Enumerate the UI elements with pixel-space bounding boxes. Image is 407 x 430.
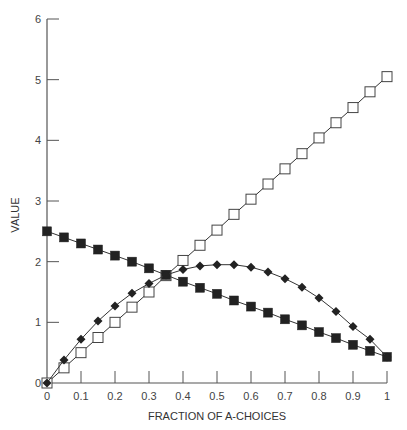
filled-square-marker	[298, 321, 307, 330]
x-tick-label: 0	[44, 390, 50, 402]
filled-square-marker	[315, 328, 324, 337]
open-square-marker	[314, 133, 324, 143]
x-tick-label: 0.2	[107, 390, 122, 402]
filled-diamond-marker	[281, 274, 290, 283]
series-filled-diamonds	[43, 260, 392, 387]
filled-square-marker	[213, 289, 222, 298]
filled-square-marker	[94, 245, 103, 254]
filled-diamond-marker	[315, 294, 324, 303]
filled-square-marker	[145, 264, 154, 273]
x-tick-label: 1	[384, 390, 390, 402]
filled-square-marker	[128, 257, 137, 266]
open-square-marker	[229, 209, 239, 219]
y-tick-label: 4	[35, 134, 41, 146]
open-square-marker	[365, 87, 375, 97]
filled-diamond-marker	[196, 261, 205, 270]
open-square-marker	[178, 255, 188, 265]
axes: 00.10.20.30.40.50.60.70.80.910123456	[35, 13, 390, 402]
y-axis-title: VALUE	[9, 197, 21, 232]
y-tick-label: 3	[35, 195, 41, 207]
filled-diamond-marker	[247, 263, 256, 272]
open-square-marker	[297, 149, 307, 159]
filled-square-marker	[366, 346, 375, 355]
x-tick-label: 0.6	[243, 390, 258, 402]
open-square-marker	[110, 317, 120, 327]
filled-diamond-marker	[230, 260, 239, 269]
filled-diamond-marker	[179, 265, 188, 274]
y-tick-label: 6	[35, 13, 41, 25]
open-square-marker	[212, 225, 222, 235]
x-tick-label: 0.8	[311, 390, 326, 402]
y-tick-label: 0	[35, 377, 41, 389]
open-square-marker	[246, 194, 256, 204]
open-square-marker	[348, 103, 358, 113]
filled-square-marker	[264, 308, 273, 317]
filled-square-marker	[60, 233, 69, 242]
open-square-marker	[382, 72, 392, 82]
line-chart: 00.10.20.30.40.50.60.70.80.910123456 FRA…	[0, 0, 407, 430]
filled-square-marker	[111, 251, 120, 260]
open-square-marker	[93, 333, 103, 343]
open-square-marker	[127, 302, 137, 312]
filled-square-marker	[281, 315, 290, 324]
y-tick-label: 2	[35, 256, 41, 268]
filled-square-marker	[247, 302, 256, 311]
filled-diamond-marker	[128, 289, 137, 298]
filled-diamond-marker	[264, 267, 273, 276]
x-tick-label: 0.4	[175, 390, 190, 402]
open-square-marker	[76, 348, 86, 358]
x-tick-label: 0.5	[209, 390, 224, 402]
x-tick-label: 0.9	[345, 390, 360, 402]
filled-square-marker	[196, 283, 205, 292]
y-tick-label: 1	[35, 316, 41, 328]
open-square-marker	[263, 179, 273, 189]
filled-square-marker	[179, 277, 188, 286]
filled-square-marker	[332, 334, 341, 343]
filled-diamond-marker	[298, 283, 307, 292]
filled-square-marker	[43, 227, 52, 236]
filled-square-marker	[77, 239, 86, 248]
open-square-marker	[195, 240, 205, 250]
x-axis-title: FRACTION OF A-CHOICES	[148, 410, 286, 422]
y-tick-label: 5	[35, 74, 41, 86]
filled-square-marker	[349, 340, 358, 349]
x-tick-label: 0.3	[141, 390, 156, 402]
open-square-marker	[144, 287, 154, 297]
open-square-marker	[280, 164, 290, 174]
series-group	[42, 72, 392, 388]
filled-diamond-marker	[213, 260, 222, 269]
x-tick-label: 0.1	[73, 390, 88, 402]
x-tick-label: 0.7	[277, 390, 292, 402]
open-square-marker	[331, 118, 341, 128]
filled-square-marker	[230, 296, 239, 305]
